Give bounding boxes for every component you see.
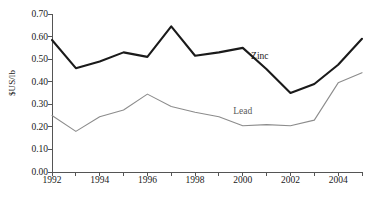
- series-label-zinc: Zinc: [251, 51, 268, 61]
- series-label-lead: Lead: [233, 106, 252, 116]
- chart-figure: $US/lb 0.000.100.200.300.400.500.600.70 …: [0, 0, 365, 203]
- series-line-zinc: [52, 26, 362, 93]
- cut-off-source-caption: [14, 193, 359, 203]
- chart-plot-area: [0, 0, 365, 203]
- axis-lines: [52, 14, 362, 172]
- series-line-lead: [52, 73, 362, 132]
